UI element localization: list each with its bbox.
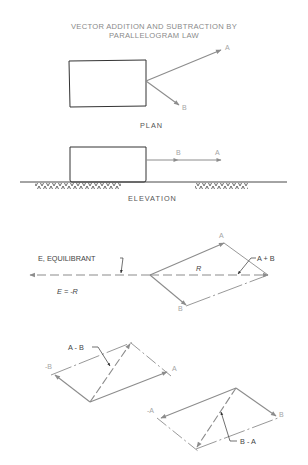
- amb-diff-arrow: [90, 344, 130, 402]
- diagram-title-line-2: PARALLELOGRAM LAW: [0, 31, 308, 40]
- diagram-title-line-1: VECTOR ADDITION AND SUBTRACTION BY: [0, 22, 308, 31]
- addition-diagram: [30, 243, 268, 306]
- sum-leader: [238, 258, 256, 274]
- addition-label-b: B: [178, 305, 183, 312]
- bma-vector-neg-a-arrow: [161, 388, 236, 418]
- bma-side-bottom: [196, 418, 278, 449]
- elevation-view: [20, 147, 287, 189]
- equilibrant-label: E, EQUILIBRANT: [38, 254, 96, 263]
- addition-vector-b-arrow: [150, 275, 186, 305]
- bma-label-neg-a: -A: [147, 407, 154, 414]
- bma-side-left: [157, 418, 198, 451]
- amb-leader: [92, 347, 110, 366]
- b-minus-a-diagram: [157, 388, 278, 451]
- amb-side-right: [131, 343, 171, 376]
- parallelogram-side-b: [186, 275, 268, 306]
- elevation-label-b: B: [176, 149, 181, 156]
- amb-vector-a-arrow: [90, 372, 167, 402]
- amb-label-a: A: [172, 365, 177, 372]
- sum-label: A + B: [257, 254, 275, 263]
- bma-label-b: B: [279, 411, 284, 418]
- resultant-label: R: [196, 264, 201, 273]
- addition-label-a: A: [219, 232, 224, 239]
- ground-hatch-right: [195, 183, 248, 189]
- addition-vector-a-arrow: [150, 243, 224, 275]
- diagram-canvas: [0, 0, 308, 465]
- b-minus-a-label: B - A: [240, 437, 256, 446]
- elevation-label-a: A: [215, 149, 220, 156]
- plan-block: [69, 60, 146, 107]
- amb-label-neg-b: -B: [45, 363, 52, 370]
- elevation-caption: ELEVATION: [128, 194, 177, 203]
- plan-vector-a-arrow: [146, 50, 221, 81]
- ground-hatch-left: [35, 183, 121, 189]
- a-minus-b-label: A - B: [68, 343, 84, 352]
- bma-diff-arrow: [197, 388, 236, 447]
- bma-vector-b-arrow: [236, 388, 276, 416]
- plan-view: [69, 50, 221, 107]
- equilibrant-leader: [120, 258, 123, 273]
- amb-vector-neg-b-arrow: [55, 375, 90, 402]
- plan-label-b: B: [182, 104, 187, 111]
- plan-label-a: A: [225, 44, 230, 51]
- plan-caption: PLAN: [140, 121, 163, 130]
- bma-leader: [221, 412, 237, 441]
- plan-vector-b-arrow: [146, 81, 179, 105]
- elevation-block: [70, 147, 146, 182]
- equilibrant-equation: E = -R: [57, 287, 78, 296]
